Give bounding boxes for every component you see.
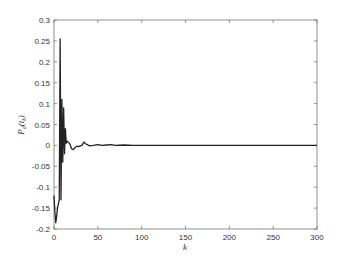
x-tick-label: 200 (223, 233, 237, 242)
y-tick-label: -0.05 (32, 162, 51, 171)
x-tick-label: 250 (266, 233, 280, 242)
x-tick-label: 100 (135, 233, 149, 242)
y-tick-label: 0 (46, 141, 51, 150)
y-tick-label: -0.15 (32, 204, 51, 213)
x-tick-label: 0 (52, 233, 57, 242)
line-chart: -0.2-0.15-0.1-0.0500.050.10.150.20.250.3… (0, 0, 340, 262)
y-tick-label: 0.1 (39, 100, 51, 109)
x-tick-label: 300 (310, 233, 324, 242)
y-tick-label: -0.2 (36, 225, 50, 234)
y-tick-label: 0.15 (34, 79, 50, 88)
x-tick-label: 50 (93, 233, 102, 242)
svg-text:Pd(tk): Pd(tk) (16, 115, 27, 136)
x-axis-label: k (183, 242, 188, 252)
x-tick-label: 150 (179, 233, 193, 242)
y-tick-label: -0.1 (36, 183, 50, 192)
y-tick-label: 0.05 (34, 121, 50, 130)
plot-frame (54, 20, 317, 229)
y-tick-label: 0.2 (39, 58, 51, 67)
y-axis-label: Pd(tk) (16, 115, 27, 136)
y-tick-label: 0.25 (34, 37, 50, 46)
y-tick-label: 0.3 (39, 16, 51, 25)
